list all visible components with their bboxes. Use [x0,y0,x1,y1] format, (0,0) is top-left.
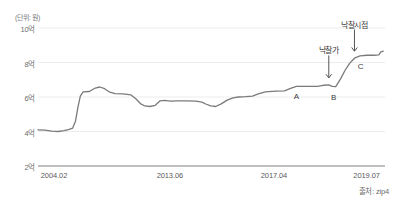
y-axis-tick-label: 10억 [13,23,35,34]
chart-container: (단위: 원) 10억8억6억4억2억 2004.022013.062017.0… [0,0,401,204]
series-group [38,51,383,131]
callout-nakchalsijeom: 낙찰시점 [341,19,368,30]
point-b: B [331,93,336,102]
y-axis-tick-label: 2억 [13,161,35,172]
x-axis-tick-label: 2004.02 [41,171,67,180]
x-axis-tick-label: 2017.04 [261,171,287,180]
x-axis-tick-label: 2013.06 [157,171,183,180]
series-line [38,51,383,131]
point-a: A [294,92,299,101]
y-axis-tick-label: 6억 [13,92,35,103]
point-c: C [358,62,364,71]
y-axis-tick-label: 4억 [13,127,35,138]
callout-nakchalga: 낙찰가 [319,44,339,55]
source-note: 출처: zip4 [359,185,389,196]
x-axis-tick-label: 2019.07 [353,171,379,180]
y-axis-tick-label: 8억 [13,58,35,69]
